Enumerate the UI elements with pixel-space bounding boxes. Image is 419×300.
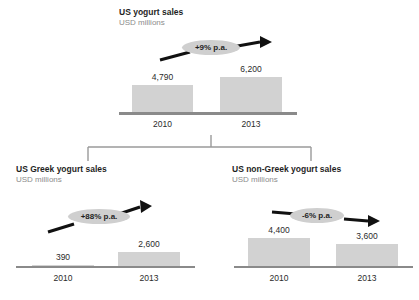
axis-line-greek <box>16 266 195 268</box>
tick-label-greek-2010: 2010 <box>32 273 94 283</box>
chart-us-greek-yogurt-sales: US Greek yogurt sales USD millions +88% … <box>0 160 210 300</box>
bar-greek-2013 <box>118 252 180 267</box>
cagr-badge-greek: +88% p.a. <box>68 209 130 224</box>
tick-label-greek-2013: 2013 <box>118 273 180 283</box>
plot-area-nongreek: -6% p.a. 4,400 3,600 2010 2013 <box>210 160 419 300</box>
bar-nongreek-2013 <box>336 244 398 267</box>
chart-us-non-greek-yogurt-sales: US non-Greek yogurt sales USD millions -… <box>210 160 419 300</box>
bar-value-nongreek-2013: 3,600 <box>336 231 398 241</box>
axis-line-nongreek <box>234 266 413 268</box>
plot-area-greek: +88% p.a. 390 2,600 2010 2013 <box>0 160 210 300</box>
bar-value-nongreek-2010: 4,400 <box>248 225 310 235</box>
tick-label-nongreek-2010: 2010 <box>248 273 310 283</box>
bar-nongreek-2010 <box>248 238 310 267</box>
cagr-badge-nongreek: -6% p.a. <box>290 208 344 223</box>
bar-value-greek-2013: 2,600 <box>118 239 180 249</box>
tick-label-nongreek-2013: 2013 <box>336 273 398 283</box>
bar-value-greek-2010: 390 <box>32 252 94 262</box>
